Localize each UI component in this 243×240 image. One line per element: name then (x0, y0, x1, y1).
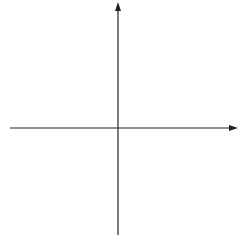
axes (10, 2, 238, 235)
x-axis-arrow-icon (229, 125, 238, 131)
coordinate-plane (0, 0, 243, 240)
y-axis-arrow-icon (115, 2, 121, 11)
